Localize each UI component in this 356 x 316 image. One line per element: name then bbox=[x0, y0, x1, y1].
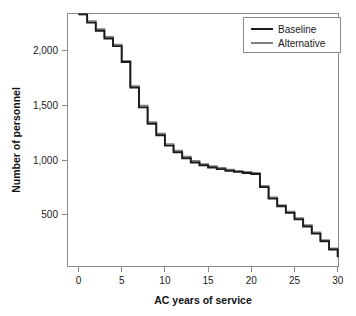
y-tick-label-1500: 1,500 bbox=[33, 100, 58, 111]
x-tick-label-20: 20 bbox=[246, 275, 258, 286]
legend-label-alternative: Alternative bbox=[278, 38, 326, 49]
y-tick-label-2000: 2,000 bbox=[33, 45, 58, 56]
x-tick-label-10: 10 bbox=[159, 275, 171, 286]
x-axis-ticks bbox=[79, 267, 338, 273]
y-axis-ticks bbox=[62, 51, 68, 215]
y-tick-label-500: 500 bbox=[41, 209, 58, 220]
chart-legend: Baseline Alternative bbox=[244, 18, 341, 53]
step-chart-figure: 2,000 1,500 1,000 500 0 5 10 15 20 25 30… bbox=[0, 0, 356, 316]
x-axis-title: AC years of service bbox=[154, 294, 252, 306]
chart-canvas: 2,000 1,500 1,000 500 0 5 10 15 20 25 30… bbox=[0, 0, 356, 316]
y-axis-title: Number of personnel bbox=[10, 87, 22, 193]
x-tick-label-30: 30 bbox=[332, 275, 344, 286]
legend-label-baseline: Baseline bbox=[278, 24, 317, 35]
x-tick-label-15: 15 bbox=[203, 275, 215, 286]
y-tick-label-1000: 1,000 bbox=[33, 155, 58, 166]
x-tick-label-0: 0 bbox=[76, 275, 82, 286]
x-tick-label-25: 25 bbox=[289, 275, 301, 286]
x-tick-label-5: 5 bbox=[119, 275, 125, 286]
